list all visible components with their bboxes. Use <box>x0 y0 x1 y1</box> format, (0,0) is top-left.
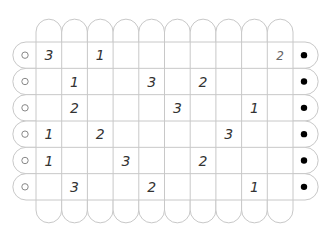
cell-hitbox[interactable] <box>242 122 267 147</box>
cell-r1-c5[interactable] <box>165 69 190 94</box>
cell-r5-c6[interactable] <box>191 174 216 199</box>
cell-r1-c8[interactable] <box>242 69 267 94</box>
cell-hitbox[interactable] <box>114 43 139 68</box>
cell-hitbox[interactable] <box>37 174 62 199</box>
cell-hitbox[interactable] <box>268 95 293 120</box>
cell-r1-c2[interactable] <box>88 69 113 94</box>
cell-r2-c6[interactable] <box>191 95 216 120</box>
cell-r0-c9[interactable]: 2 <box>268 43 293 68</box>
cell-r4-c8[interactable] <box>242 148 267 173</box>
cell-r3-c1[interactable] <box>62 122 87 147</box>
filled-dot-icon[interactable] <box>301 52 307 58</box>
cell-hitbox[interactable] <box>216 148 241 173</box>
cell-r0-c8[interactable] <box>242 43 267 68</box>
cell-r3-c0[interactable]: 1 <box>37 122 62 147</box>
cell-r3-c9[interactable] <box>268 122 293 147</box>
cell-hitbox[interactable] <box>242 69 267 94</box>
cell-hitbox[interactable] <box>62 43 87 68</box>
cell-r2-c2[interactable] <box>88 95 113 120</box>
cell-hitbox[interactable] <box>88 174 113 199</box>
cell-r4-c2[interactable] <box>88 148 113 173</box>
cell-r4-c3[interactable]: 3 <box>114 148 139 173</box>
cell-hitbox[interactable] <box>114 174 139 199</box>
cell-hitbox[interactable] <box>139 148 164 173</box>
cell-hitbox[interactable] <box>114 69 139 94</box>
cell-r4-c9[interactable] <box>268 148 293 173</box>
cell-r2-c3[interactable] <box>114 95 139 120</box>
cell-r0-c7[interactable] <box>216 43 241 68</box>
cell-hitbox[interactable] <box>268 148 293 173</box>
cell-hitbox[interactable] <box>191 43 216 68</box>
cell-hitbox[interactable] <box>114 122 139 147</box>
cell-hitbox[interactable] <box>268 174 293 199</box>
cell-r2-c5[interactable]: 3 <box>165 95 190 120</box>
cell-hitbox[interactable] <box>37 69 62 94</box>
cell-r0-c1[interactable] <box>62 43 87 68</box>
cell-r5-c5[interactable] <box>165 174 190 199</box>
cell-r1-c9[interactable] <box>268 69 293 94</box>
cell-r4-c1[interactable] <box>62 148 87 173</box>
cell-r3-c8[interactable] <box>242 122 267 147</box>
cell-r4-c4[interactable] <box>139 148 164 173</box>
cell-hitbox[interactable] <box>139 43 164 68</box>
cell-r0-c0[interactable]: 3 <box>37 43 62 68</box>
cell-r2-c1[interactable]: 2 <box>62 95 87 120</box>
cell-hitbox[interactable] <box>242 148 267 173</box>
cell-r3-c5[interactable] <box>165 122 190 147</box>
cell-r2-c7[interactable] <box>216 95 241 120</box>
cell-r5-c9[interactable] <box>268 174 293 199</box>
cell-hitbox[interactable] <box>191 122 216 147</box>
open-circle-icon[interactable] <box>22 131 28 137</box>
cell-hitbox[interactable] <box>62 122 87 147</box>
cell-hitbox[interactable] <box>37 95 62 120</box>
cell-r1-c3[interactable] <box>114 69 139 94</box>
cell-r3-c6[interactable] <box>191 122 216 147</box>
cell-hitbox[interactable] <box>268 69 293 94</box>
cell-hitbox[interactable] <box>165 174 190 199</box>
open-circle-icon[interactable] <box>22 78 28 84</box>
cell-hitbox[interactable] <box>191 95 216 120</box>
cell-hitbox[interactable] <box>165 43 190 68</box>
cell-r1-c4[interactable]: 3 <box>139 69 164 94</box>
cell-hitbox[interactable] <box>216 43 241 68</box>
cell-r0-c2[interactable]: 1 <box>88 43 113 68</box>
cell-hitbox[interactable] <box>139 122 164 147</box>
cell-hitbox[interactable] <box>88 148 113 173</box>
open-circle-icon[interactable] <box>22 52 28 58</box>
cell-r4-c7[interactable] <box>216 148 241 173</box>
cell-r0-c3[interactable] <box>114 43 139 68</box>
cell-r2-c9[interactable] <box>268 95 293 120</box>
cell-hitbox[interactable] <box>165 122 190 147</box>
cell-r0-c5[interactable] <box>165 43 190 68</box>
filled-dot-icon[interactable] <box>301 184 307 190</box>
cell-hitbox[interactable] <box>88 69 113 94</box>
cell-hitbox[interactable] <box>216 174 241 199</box>
cell-hitbox[interactable] <box>62 148 87 173</box>
cell-r5-c1[interactable]: 3 <box>62 174 87 199</box>
cell-hitbox[interactable] <box>268 122 293 147</box>
filled-dot-icon[interactable] <box>301 131 307 137</box>
cell-r5-c3[interactable] <box>114 174 139 199</box>
cell-r5-c2[interactable] <box>88 174 113 199</box>
filled-dot-icon[interactable] <box>301 157 307 163</box>
open-circle-icon[interactable] <box>22 157 28 163</box>
cell-hitbox[interactable] <box>191 174 216 199</box>
cell-r1-c1[interactable]: 1 <box>62 69 87 94</box>
cell-r2-c4[interactable] <box>139 95 164 120</box>
cell-hitbox[interactable] <box>165 69 190 94</box>
cell-r4-c5[interactable] <box>165 148 190 173</box>
cell-hitbox[interactable] <box>114 95 139 120</box>
cell-hitbox[interactable] <box>139 95 164 120</box>
cell-r4-c0[interactable]: 1 <box>37 148 62 173</box>
cell-r0-c4[interactable] <box>139 43 164 68</box>
filled-dot-icon[interactable] <box>301 105 307 111</box>
cell-r5-c0[interactable] <box>37 174 62 199</box>
cell-r5-c4[interactable]: 2 <box>139 174 164 199</box>
open-circle-icon[interactable] <box>22 184 28 190</box>
cell-r3-c7[interactable]: 3 <box>216 122 241 147</box>
cell-r2-c8[interactable]: 1 <box>242 95 267 120</box>
cell-r1-c0[interactable] <box>37 69 62 94</box>
filled-dot-icon[interactable] <box>301 78 307 84</box>
cell-r3-c2[interactable]: 2 <box>88 122 113 147</box>
cell-hitbox[interactable] <box>165 148 190 173</box>
